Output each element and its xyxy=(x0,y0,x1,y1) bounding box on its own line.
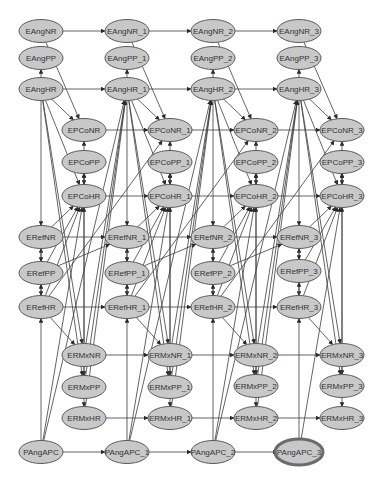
node-epcohr-2[interactable]: EPCoHR_2 xyxy=(234,185,278,208)
node-label: EAngHR_3 xyxy=(279,85,320,94)
node-label: ERMxNR xyxy=(67,351,101,360)
node-erefhr[interactable]: ERefHR xyxy=(19,296,63,319)
node-epconr-2[interactable]: EPCoNR_2 xyxy=(234,119,278,142)
node-ermxpp-1[interactable]: ERMxPP_1 xyxy=(148,376,192,399)
node-ermxhr[interactable]: ERMxHR xyxy=(62,407,106,430)
node-label: EPCoNR_1 xyxy=(149,126,191,135)
node-label: ERMxHR xyxy=(67,414,101,423)
node-ermxpp-2[interactable]: ERMxPP_2 xyxy=(234,375,278,398)
node-erefpp-1[interactable]: ERefPP_1 xyxy=(105,262,149,285)
node-eangpp-1[interactable]: EAngPP_1 xyxy=(105,47,149,70)
node-label: ERefPP_2 xyxy=(194,269,232,278)
node-label: EPCoNR xyxy=(68,126,101,135)
node-erefpp[interactable]: ERefPP xyxy=(19,262,63,285)
node-epcohr[interactable]: EPCoHR xyxy=(62,185,106,208)
node-erefnr-1[interactable]: ERefNR_1 xyxy=(105,226,149,249)
node-label: EPCoHR_1 xyxy=(149,192,191,201)
node-epconr-3[interactable]: EPCoNR_3 xyxy=(320,119,364,142)
node-eangnr[interactable]: EAngNR xyxy=(19,20,63,43)
node-erefnr-2[interactable]: ERefNR_2 xyxy=(191,226,235,249)
node-label: EAngHR xyxy=(25,85,56,94)
node-eanghr-1[interactable]: EAngHR_1 xyxy=(105,78,149,101)
node-label: ERefHR xyxy=(26,303,56,312)
node-epcohr-1[interactable]: EPCoHR_1 xyxy=(148,185,192,208)
node-pangapc-2[interactable]: PAngAPC_2 xyxy=(191,441,236,464)
node-label: EPCoPP xyxy=(68,158,100,167)
node-eanghr-3[interactable]: EAngHR_3 xyxy=(277,78,321,101)
node-eangpp[interactable]: EAngPP xyxy=(19,47,63,70)
node-label: ERefPP xyxy=(27,269,55,278)
node-label: ERMxNR_2 xyxy=(235,351,278,360)
node-label: EAngNR_1 xyxy=(107,27,148,36)
intra-slice-edge xyxy=(308,317,332,344)
node-label: EAngNR xyxy=(25,27,56,36)
node-eanghr-2[interactable]: EAngHR_2 xyxy=(191,78,235,101)
node-label: PAngAPC_3 xyxy=(277,448,322,457)
node-erefpp-2[interactable]: ERefPP_2 xyxy=(191,262,235,285)
node-label: ERefNR_2 xyxy=(194,233,233,242)
node-epcopp-3[interactable]: EPCoPP_3 xyxy=(320,151,364,174)
node-pangapc-3[interactable]: PAngAPC_3 xyxy=(275,439,323,465)
intra-slice-edge xyxy=(222,317,246,344)
node-label: ERMxHR_1 xyxy=(149,414,192,423)
node-label: EAngNR_3 xyxy=(279,27,320,36)
intra-slice-edge xyxy=(310,99,332,120)
node-label: EPCoPP_2 xyxy=(236,158,277,167)
node-label: ERefNR xyxy=(26,233,56,242)
node-ermxhr-1[interactable]: ERMxHR_1 xyxy=(148,407,192,430)
node-label: EPCoHR xyxy=(68,192,101,201)
node-epconr[interactable]: EPCoNR xyxy=(62,119,106,142)
node-eangnr-1[interactable]: EAngNR_1 xyxy=(105,20,149,43)
bayesian-network-graph: EAngNREAngPPEAngHREPCoNREPCoPPEPCoHRERef… xyxy=(0,0,385,483)
node-label: EPCoHR_3 xyxy=(321,192,363,201)
intra-slice-edge xyxy=(52,99,74,120)
node-epcopp-2[interactable]: EPCoPP_2 xyxy=(234,151,278,174)
node-erefnr-3[interactable]: ERefNR_3 xyxy=(277,226,321,249)
node-epcopp-1[interactable]: EPCoPP_1 xyxy=(148,151,192,174)
node-ermxpp-3[interactable]: ERMxPP_3 xyxy=(320,375,364,398)
node-ermxnr[interactable]: ERMxNR xyxy=(62,344,106,367)
node-ermxhr-3[interactable]: ERMxHR_3 xyxy=(320,407,364,430)
node-eangpp-3[interactable]: EAngPP_3 xyxy=(277,47,321,70)
node-label: PAngAPC xyxy=(23,448,59,457)
node-label: ERMxHR_3 xyxy=(321,414,364,423)
node-label: ERefHR_3 xyxy=(280,303,319,312)
node-label: ERefNR_1 xyxy=(108,233,147,242)
node-ermxnr-2[interactable]: ERMxNR_2 xyxy=(234,344,278,367)
node-eangnr-2[interactable]: EAngNR_2 xyxy=(191,20,235,43)
node-ermxpp[interactable]: ERMxPP xyxy=(62,376,106,399)
node-label: ERMxNR_3 xyxy=(321,351,364,360)
node-erefhr-2[interactable]: ERefHR_2 xyxy=(191,296,235,319)
node-label: ERMxNR_1 xyxy=(149,351,192,360)
node-ermxhr-2[interactable]: ERMxHR_2 xyxy=(234,407,278,430)
node-ermxnr-1[interactable]: ERMxNR_1 xyxy=(148,344,192,367)
node-erefnr[interactable]: ERefNR xyxy=(19,226,63,249)
node-pangapc[interactable]: PAngAPC xyxy=(19,441,63,464)
node-erefhr-3[interactable]: ERefHR_3 xyxy=(277,296,321,319)
intra-slice-edge xyxy=(224,99,246,120)
node-label: ERMxPP_1 xyxy=(149,383,191,392)
node-epcohr-3[interactable]: EPCoHR_3 xyxy=(320,185,364,208)
node-label: ERMxHR_2 xyxy=(235,414,278,423)
node-eangpp-2[interactable]: EAngPP_2 xyxy=(191,47,235,70)
node-label: ERefPP_3 xyxy=(280,267,318,276)
node-epconr-1[interactable]: EPCoNR_1 xyxy=(148,119,192,142)
node-ermxnr-3[interactable]: ERMxNR_3 xyxy=(320,344,364,367)
intra-slice-edge xyxy=(136,317,160,344)
node-erefhr-1[interactable]: ERefHR_1 xyxy=(105,296,149,319)
node-label: EAngPP xyxy=(26,54,56,63)
node-label: EAngPP_3 xyxy=(279,54,319,63)
node-label: EAngPP_2 xyxy=(193,54,233,63)
node-label: EAngPP_1 xyxy=(107,54,147,63)
node-label: ERMxPP_2 xyxy=(235,382,277,391)
node-epcopp[interactable]: EPCoPP xyxy=(62,151,106,174)
node-label: PAngAPC_2 xyxy=(191,448,236,457)
node-pangapc-1[interactable]: PAngAPC_1 xyxy=(105,441,150,464)
intra-slice-edge xyxy=(138,99,160,120)
node-label: EAngHR_2 xyxy=(193,85,234,94)
node-label: ERefHR_1 xyxy=(108,303,147,312)
node-eangnr-3[interactable]: EAngNR_3 xyxy=(277,20,321,43)
node-label: EPCoNR_3 xyxy=(321,126,363,135)
node-eanghr[interactable]: EAngHR xyxy=(19,78,63,101)
node-erefpp-3[interactable]: ERefPP_3 xyxy=(277,260,321,283)
